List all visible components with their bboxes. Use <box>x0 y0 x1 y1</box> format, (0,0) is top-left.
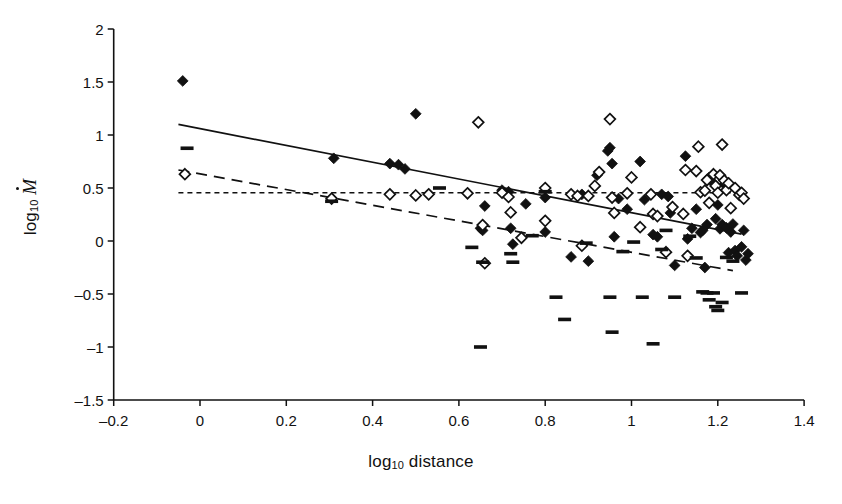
x-tick-label: 0 <box>196 412 204 429</box>
x-axis-title-rest: distance <box>404 452 474 471</box>
y-tick-label: 1 <box>36 127 104 144</box>
point-dash <box>716 301 729 305</box>
point-open-diamond <box>516 232 527 243</box>
point-filled-diamond <box>609 231 620 242</box>
y-tick-label: –0.5 <box>36 286 104 303</box>
y-tick-label: 1.5 <box>36 74 104 91</box>
point-dash <box>181 146 194 150</box>
axes <box>108 29 804 406</box>
point-dash <box>735 291 748 295</box>
point-open-diamond <box>410 190 421 201</box>
point-open-diamond <box>589 180 600 191</box>
point-dash <box>703 298 716 302</box>
point-open-diamond <box>678 209 689 220</box>
point-dash <box>539 190 552 194</box>
x-tick-label: 0.4 <box>362 412 383 429</box>
point-dash <box>636 295 649 299</box>
point-open-diamond <box>540 215 551 226</box>
point-filled-diamond <box>680 151 691 162</box>
point-open-diamond <box>505 207 516 218</box>
x-tick-label: –0.2 <box>99 412 128 429</box>
point-open-diamond <box>473 117 484 128</box>
point-filled-diamond <box>635 156 646 167</box>
point-open-diamond <box>423 189 434 200</box>
y-tick-label: –1.5 <box>36 392 104 409</box>
point-open-diamond <box>462 188 473 199</box>
point-filled-diamond <box>505 223 516 234</box>
point-dash <box>616 250 629 254</box>
figure-scatter-plot: –0.200.20.40.60.811.21.4–1.5–1–0.500.511… <box>0 0 842 504</box>
point-filled-diamond <box>691 204 702 215</box>
point-dash <box>647 342 660 346</box>
point-dash <box>603 295 616 299</box>
point-dash <box>465 246 478 250</box>
point-open-diamond <box>680 165 691 176</box>
point-dash <box>506 260 519 264</box>
y-tick-label: 0 <box>36 233 104 250</box>
point-dash <box>668 295 681 299</box>
point-filled-diamond <box>566 252 577 263</box>
point-dash <box>690 256 703 260</box>
point-dash <box>655 248 668 252</box>
y-tick-label: 2 <box>36 21 104 38</box>
y-tick-label: –1 <box>36 339 104 356</box>
point-filled-diamond <box>699 262 710 273</box>
point-filled-diamond <box>410 108 421 119</box>
point-dash <box>627 240 640 244</box>
point-dash <box>504 252 517 256</box>
y-tick-label: 0.5 <box>36 180 104 197</box>
point-dash <box>720 256 733 260</box>
y-axis-title-sub: 10 <box>28 200 40 212</box>
x-tick-label: 0.6 <box>448 412 469 429</box>
x-tick-label: 0.8 <box>535 412 556 429</box>
point-filled-diamond <box>479 201 490 212</box>
point-open-diamond <box>384 189 395 200</box>
point-open-diamond <box>717 139 728 150</box>
point-dash <box>526 234 539 238</box>
x-tick-label: 1.4 <box>794 412 815 429</box>
y-axis-title-rest <box>21 195 40 200</box>
point-dash <box>726 259 739 263</box>
point-open-diamond <box>626 172 637 183</box>
point-dash <box>660 229 673 233</box>
point-dash <box>606 330 619 334</box>
point-open-diamond <box>605 114 616 125</box>
point-filled-diamond <box>520 199 531 210</box>
x-axis-title: log10 distance <box>0 452 842 472</box>
point-dash <box>325 199 338 203</box>
point-dash <box>558 318 571 322</box>
y-axis-title-base: log <box>21 212 40 235</box>
point-dash <box>476 260 489 264</box>
point-open-diamond <box>693 141 704 152</box>
point-filled-diamond <box>583 256 594 267</box>
mdot-symbol: M <box>19 179 40 195</box>
x-tick-label: 1.2 <box>707 412 728 429</box>
point-dash <box>707 291 720 295</box>
point-filled-diamond <box>507 239 518 250</box>
dashed-fit <box>178 170 732 271</box>
point-open-diamond <box>691 166 702 177</box>
point-dash <box>580 241 593 245</box>
point-filled-diamond <box>177 76 188 87</box>
point-filled-diamond <box>607 158 618 169</box>
point-dash <box>683 234 696 238</box>
x-axis-title-base: log <box>368 452 391 471</box>
point-dash <box>433 186 446 190</box>
x-tick-label: 1 <box>627 412 635 429</box>
point-open-diamond <box>635 222 646 233</box>
x-tick-label: 0.2 <box>276 412 297 429</box>
point-dash <box>711 309 724 313</box>
x-axis-title-sub: 10 <box>392 459 404 471</box>
point-open-diamond <box>725 203 736 214</box>
point-open-diamond <box>622 188 633 199</box>
point-dash <box>709 305 722 309</box>
point-open-diamond <box>704 197 715 208</box>
point-dash <box>474 345 487 349</box>
series-filled-diamond <box>177 76 753 273</box>
data-points <box>177 76 753 349</box>
y-axis-title: log10 M <box>19 117 41 297</box>
point-dash <box>549 295 562 299</box>
series-dash <box>181 146 748 348</box>
